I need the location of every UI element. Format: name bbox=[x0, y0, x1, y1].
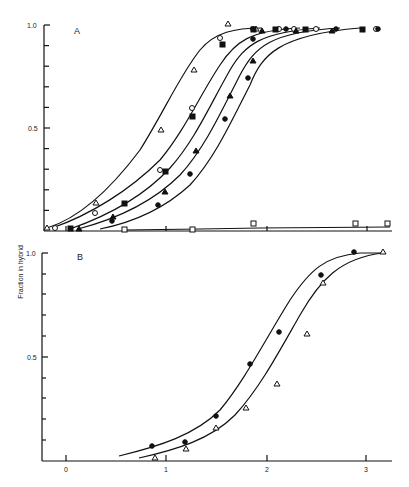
triangle-filled-markers bbox=[76, 28, 335, 231]
panel-a-markers bbox=[44, 21, 390, 232]
circle-filled-markers bbox=[110, 27, 381, 224]
curve-b-open-triangle bbox=[139, 253, 383, 458]
panel-b-x-ticks bbox=[66, 455, 366, 461]
panel-b-xtick-1: 1 bbox=[164, 466, 168, 473]
curve-open-triangle bbox=[47, 28, 262, 228]
panel-a-ytick-1: 1.0 bbox=[27, 22, 37, 29]
panel-a-ytick-05: 0.5 bbox=[28, 125, 38, 132]
panel-b-markers bbox=[150, 249, 386, 460]
square-filled-markers bbox=[68, 27, 365, 231]
curve-filled-triangle bbox=[78, 28, 340, 229]
triangle-open-markers bbox=[44, 21, 259, 230]
panel-b-xtick-3: 3 bbox=[364, 466, 368, 473]
panel-b-curves bbox=[119, 253, 383, 458]
y-axis-label: Fraction in hybrid bbox=[17, 245, 25, 299]
circle-open-markers bbox=[53, 27, 379, 231]
hybridization-figure: 1.0 0.5 A bbox=[0, 0, 409, 487]
b-triangle-open-markers bbox=[152, 249, 386, 460]
curve-filled-circle bbox=[100, 28, 360, 229]
curve-open-square bbox=[124, 227, 390, 230]
panel-b-ytick-05: 0.5 bbox=[27, 354, 37, 361]
panel-b-xtick-2: 2 bbox=[265, 466, 269, 473]
panel-b-xtick-0: 0 bbox=[64, 466, 68, 473]
panel-a-label: A bbox=[74, 26, 80, 36]
panel-a-y-ticks bbox=[44, 25, 50, 210]
panel-b-y-ticks bbox=[42, 253, 48, 440]
panel-b-label: B bbox=[77, 252, 83, 262]
panel-a-curves bbox=[47, 28, 390, 230]
curve-open-circle bbox=[52, 28, 300, 228]
curve-filled-square bbox=[70, 28, 320, 229]
curve-b-filled-circle bbox=[119, 253, 383, 456]
square-open-markers bbox=[122, 221, 390, 232]
panel-b-ytick-1: 1.0 bbox=[26, 250, 36, 257]
